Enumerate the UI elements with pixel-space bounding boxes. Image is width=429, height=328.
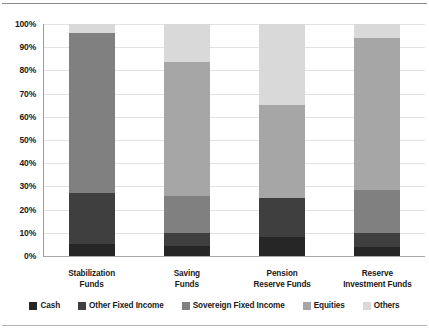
bar-segment[interactable] (164, 233, 210, 246)
y-axis-tick-labels: 100%90%80%70%60%50%40%30%20%10%0% (0, 24, 40, 256)
y-axis-tick-30: 30% (20, 181, 36, 191)
y-axis-tick-0: 0% (24, 251, 36, 261)
bar-segment[interactable] (259, 105, 305, 198)
bar-segment[interactable] (164, 246, 210, 256)
stacked-bar-chart: 100%90%80%70%60%50%40%30%20%10%0% Stabil… (0, 0, 429, 328)
x-axis-label-line: Investment Funds (330, 279, 425, 290)
bar-segment[interactable] (259, 237, 305, 256)
x-axis-category-labels: StabilizationFundsSavingFundsPensionRese… (44, 268, 425, 290)
bar-segment[interactable] (259, 198, 305, 237)
stacked-bar[interactable] (69, 24, 115, 256)
legend-label: Others (374, 301, 400, 310)
bar-segment[interactable] (164, 62, 210, 195)
y-axis-tick-60: 60% (20, 112, 36, 122)
legend-swatch-icon (78, 302, 86, 310)
y-axis-tick-10: 10% (20, 228, 36, 238)
y-axis-tick-40: 40% (20, 158, 36, 168)
bar-segment[interactable] (354, 247, 400, 256)
bar-segment[interactable] (69, 24, 115, 33)
legend-swatch-icon (182, 302, 190, 310)
y-axis-tick-90: 90% (20, 42, 36, 52)
x-axis-label-line: Funds (44, 279, 139, 290)
legend-item[interactable]: Other Fixed Income (78, 301, 164, 310)
top-divider (2, 3, 427, 4)
plot-wrapper: 100%90%80%70%60%50%40%30%20%10%0% (0, 24, 429, 264)
bar-segment[interactable] (69, 193, 115, 244)
bar-segment[interactable] (354, 233, 400, 247)
legend-item[interactable]: Others (363, 301, 400, 310)
bar-segment[interactable] (354, 38, 400, 190)
y-axis-tick-70: 70% (20, 89, 36, 99)
y-axis-tick-100: 100% (15, 19, 36, 29)
legend-item[interactable]: Cash (29, 301, 60, 310)
bottom-divider (2, 325, 427, 326)
x-axis-label-line: Reserve (330, 268, 425, 279)
legend-label: Other Fixed Income (89, 301, 164, 310)
x-axis-label-0: StabilizationFunds (44, 268, 139, 290)
x-axis-label-line: Funds (139, 279, 234, 290)
x-axis-label-line: Saving (139, 268, 234, 279)
x-axis-label-2: PensionReserve Funds (235, 268, 330, 290)
bar-slot (235, 24, 330, 256)
bar-segment[interactable] (354, 24, 400, 38)
legend-swatch-icon (303, 302, 311, 310)
legend-label: Cash (40, 301, 60, 310)
stacked-bar[interactable] (259, 24, 305, 256)
chart-legend: CashOther Fixed IncomeSovereign Fixed In… (0, 301, 429, 310)
bar-segment[interactable] (69, 244, 115, 256)
x-axis-label-line: Stabilization (44, 268, 139, 279)
bar-slot (44, 24, 139, 256)
legend-item[interactable]: Equities (303, 301, 345, 310)
stacked-bar[interactable] (164, 24, 210, 256)
bar-segment[interactable] (164, 196, 210, 233)
legend-item[interactable]: Sovereign Fixed Income (182, 301, 285, 310)
y-axis-tick-80: 80% (20, 65, 36, 75)
y-axis-tick-50: 50% (20, 135, 36, 145)
bars-layer (44, 24, 425, 256)
x-axis-label-3: ReserveInvestment Funds (330, 268, 425, 290)
legend-label: Sovereign Fixed Income (193, 301, 285, 310)
bar-segment[interactable] (69, 33, 115, 193)
stacked-bar[interactable] (354, 24, 400, 256)
bar-slot (139, 24, 234, 256)
y-axis-tick-20: 20% (20, 205, 36, 215)
bar-slot (330, 24, 425, 256)
gridline-0 (44, 256, 425, 257)
x-axis-label-1: SavingFunds (139, 268, 234, 290)
bar-segment[interactable] (259, 24, 305, 105)
plot-area (44, 24, 425, 256)
legend-swatch-icon (29, 302, 37, 310)
bar-segment[interactable] (164, 24, 210, 62)
legend-label: Equities (314, 301, 345, 310)
bar-segment[interactable] (354, 190, 400, 233)
x-axis-label-line: Pension (235, 268, 330, 279)
x-axis-label-line: Reserve Funds (235, 279, 330, 290)
legend-swatch-icon (363, 302, 371, 310)
